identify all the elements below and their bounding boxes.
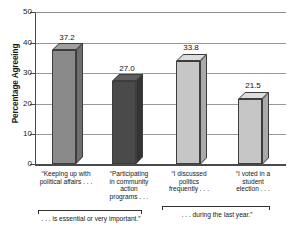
- y-tick-label-10: 10: [8, 130, 32, 138]
- category-label-3-line-2: politics: [157, 178, 221, 186]
- bar-chart: Percentage Agreeing 50 40 30 20 10 0 37.…: [0, 0, 294, 240]
- bar-1-front-face: [52, 50, 76, 164]
- y-tick-label-30: 30: [8, 69, 32, 77]
- category-label-2-line-1: “Participating: [98, 170, 160, 178]
- category-label-1: “Keeping up with political affairs . . .: [28, 170, 104, 185]
- category-label-4-line-3: election . . .: [221, 185, 285, 193]
- bar-4-front-face: [238, 99, 262, 165]
- category-label-2-line-3: action: [98, 185, 160, 193]
- y-tick-label-20: 20: [8, 100, 32, 108]
- bar-2-value-label: 27.0: [107, 65, 147, 73]
- y-tick-label-0: 0: [8, 160, 32, 168]
- bar-3-front-face: [176, 61, 200, 165]
- category-label-3-line-1: “I discussed: [157, 170, 221, 178]
- bracket-2: [162, 206, 270, 210]
- bracket-2-note: . . . during the last year.”: [158, 211, 276, 219]
- bar-3-value-label: 33.8: [171, 44, 211, 52]
- bracket-1-note: . . . is essential or very important.”: [18, 215, 164, 223]
- y-tick-label-50: 50: [8, 8, 32, 16]
- category-label-4-line-1: “I voted in a: [221, 170, 285, 178]
- category-label-3-line-3: frequently . . .: [157, 185, 221, 193]
- bar-1-value-label: 37.2: [47, 34, 87, 42]
- bar-3-side-face: [200, 53, 207, 164]
- bar-4-value-label: 21.5: [233, 82, 273, 90]
- category-label-2-line-4: programs . . .: [98, 193, 160, 201]
- bar-1-side-face: [76, 43, 83, 164]
- bar-3: [176, 61, 200, 165]
- category-label-1-line-1: “Keeping up with: [28, 170, 104, 178]
- bar-4: [238, 99, 262, 165]
- bar-2-front-face: [112, 81, 136, 164]
- bar-1: [52, 50, 76, 164]
- category-label-2-line-2: in community: [98, 178, 160, 186]
- bar-2: [112, 81, 136, 164]
- category-label-4: “I voted in a student election . . .: [221, 170, 285, 193]
- category-label-2: “Participating in community action progr…: [98, 170, 160, 200]
- category-label-1-line-2: political affairs . . .: [28, 178, 104, 186]
- bar-4-side-face: [262, 91, 269, 164]
- category-label-4-line-2: student: [221, 178, 285, 186]
- bar-2-side-face: [136, 74, 143, 165]
- category-label-3: “I discussed politics frequently . . .: [157, 170, 221, 193]
- bracket-1: [38, 210, 142, 214]
- y-tick-label-40: 40: [8, 39, 32, 47]
